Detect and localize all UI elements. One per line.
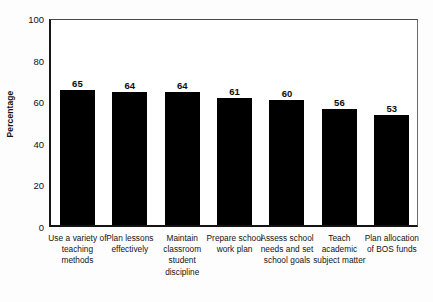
bar[interactable] [217,98,252,225]
category-label: Plan lessons effectively [101,233,159,255]
bar-value-label: 53 [364,103,419,114]
bar[interactable] [374,115,409,225]
category-label: Teach academic subject matter [310,233,368,267]
bar-value-label: 61 [207,86,262,97]
y-tick-label-80: 80 [18,55,44,66]
y-tick-label-20: 20 [18,180,44,191]
bar-value-label: 56 [312,97,367,108]
bar[interactable] [60,90,95,225]
bar-value-label: 60 [260,88,315,99]
y-tick-label-0: 0 [18,222,44,233]
category-label: Prepare school work plan [205,233,263,255]
category-label: Assess school needs and set school goals [258,233,316,267]
plot-area [49,19,418,227]
bar[interactable] [165,92,200,225]
y-tick-label-40: 40 [18,138,44,149]
bar-value-label: 64 [102,80,157,91]
category-label: Maintain classroom student discipline [153,233,211,278]
bar-chart: Percentage 020406080100 65646461605653 U… [0,0,433,302]
bar[interactable] [322,109,357,225]
y-axis-title: Percentage [0,0,20,227]
bar-value-label: 65 [50,78,105,89]
y-axis-title-text: Percentage [5,90,15,137]
category-label: Use a variety of teaching methods [48,233,106,267]
category-label: Plan allocation of BOS funds [363,233,421,255]
y-tick-label-60: 60 [18,97,44,108]
bar-value-label: 64 [155,80,210,91]
bar[interactable] [269,100,304,225]
y-tick-label-100: 100 [18,14,44,25]
bar[interactable] [112,92,147,225]
